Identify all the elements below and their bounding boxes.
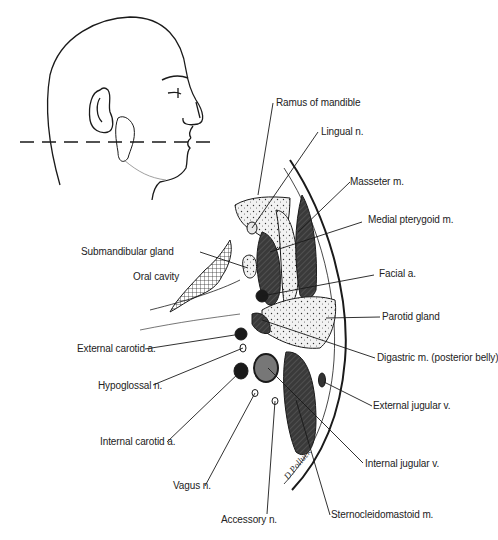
label-facial-a: Facial a. [379, 268, 416, 280]
label-submandibular-gland: Submandibular gland [81, 246, 174, 258]
label-external-jugular-v: External jugular v. [373, 400, 450, 412]
label-sternocleidomastoid-m: Sternocleidomastoid m. [331, 509, 433, 521]
label-hypoglossal-n: Hypoglossal n. [98, 380, 162, 392]
label-oral-cavity: Oral cavity [133, 271, 179, 283]
label-accessory-n: Accessory n. [221, 514, 277, 526]
head-profile-inset [48, 17, 203, 200]
label-masseter-m: Masseter m. [350, 176, 404, 188]
label-external-carotid-a: External carotid a. [77, 343, 156, 355]
label-parotid-gland: Parotid gland [382, 311, 440, 323]
label-ramus-of-mandible: Ramus of mandible [276, 97, 360, 109]
label-lingual-n: Lingual n. [321, 126, 363, 138]
label-medial-pterygoid-m: Medial pterygoid m. [368, 214, 453, 226]
label-vagus-n: Vagus n. [173, 480, 211, 492]
label-internal-carotid-a: Internal carotid a. [100, 436, 175, 448]
label-internal-jugular-v: Internal jugular v. [365, 458, 439, 470]
label-digastric-m: Digastric m. (posterior belly) [377, 352, 498, 364]
